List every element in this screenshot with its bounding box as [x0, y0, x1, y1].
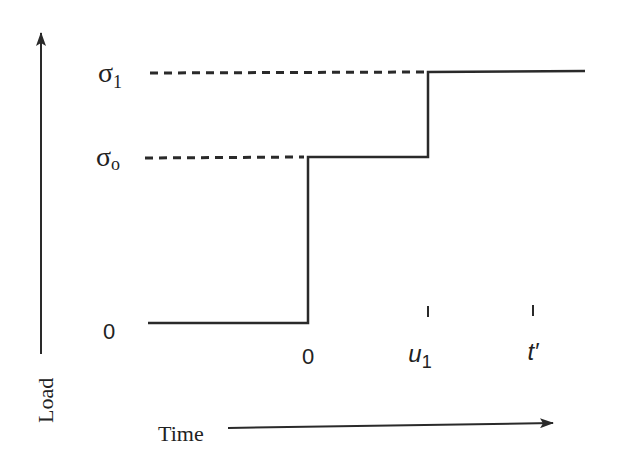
x-marks: 0 u1 t′ [302, 305, 540, 372]
load-step-path [148, 71, 585, 323]
load-time-diagram: Load Time σ1 σo 0 0 u1 t′ [0, 0, 621, 464]
sigma0-dashed-line [145, 157, 304, 158]
sigma1-dashed-line [150, 72, 424, 73]
y-axis: Load [33, 33, 58, 423]
zero-load-label: 0 [103, 319, 115, 344]
sigma1-label: σ1 [98, 57, 122, 92]
sigma0-label: σo [96, 141, 120, 174]
reference-lines [145, 72, 424, 158]
x-axis-label: Time [158, 421, 204, 446]
x-axis: Time [158, 421, 553, 446]
tprime-label: t′ [527, 338, 540, 365]
y-axis-label: Load [33, 378, 58, 423]
u1-label: u1 [408, 340, 431, 372]
x-axis-arrow-icon [228, 423, 553, 428]
y-level-labels: σ1 σo 0 [96, 57, 122, 344]
time-zero-label: 0 [302, 344, 314, 369]
